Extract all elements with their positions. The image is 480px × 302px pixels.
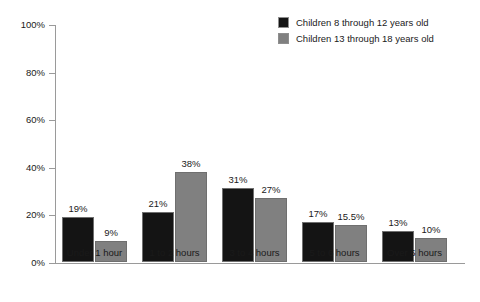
bar-value-label: 21% xyxy=(148,198,167,210)
y-axis-tick: 80% xyxy=(49,73,55,74)
y-axis-tick-label: 80% xyxy=(26,66,45,79)
bar-value-label: 31% xyxy=(228,174,247,186)
bar-chart: Children 8 through 12 years oldChildren … xyxy=(0,0,480,302)
x-axis-line xyxy=(55,263,465,264)
y-axis-tick: 20% xyxy=(49,215,55,216)
y-axis-tick-label: 60% xyxy=(26,113,45,126)
y-axis-tick-label: 20% xyxy=(26,208,45,221)
bar-value-label: 27% xyxy=(261,184,280,196)
bar-value-label: 13% xyxy=(388,217,407,229)
x-axis-category-label: 5 to 6 hours xyxy=(293,246,376,259)
bar-value-label: 17% xyxy=(308,208,327,220)
y-axis-tick: 100% xyxy=(49,25,55,26)
y-axis-tick: 0% xyxy=(49,263,55,264)
y-axis-line xyxy=(55,25,56,263)
x-axis-category-label: Under 1 hour xyxy=(53,246,136,259)
bar-group: 17%15.5% xyxy=(302,24,367,262)
bar-group: 31%27% xyxy=(222,24,287,262)
x-axis-category-label: 1 to 2 hours xyxy=(133,246,216,259)
y-axis-tick-label: 100% xyxy=(21,18,45,31)
bar-value-label: 38% xyxy=(181,158,200,170)
x-axis-category-label: 3 to 4 hours xyxy=(213,246,296,259)
bar-value-label: 19% xyxy=(68,203,87,215)
bar-group: 13%10% xyxy=(382,24,447,262)
plot-area: 0%20%40%60%80%100% 19%9%21%38%31%27%17%1… xyxy=(55,25,465,263)
y-axis-tick-label: 40% xyxy=(26,161,45,174)
bar-value-label: 15.5% xyxy=(338,211,365,223)
bar-value-label: 10% xyxy=(421,224,440,236)
y-axis-tick: 60% xyxy=(49,120,55,121)
bar-group: 19%9% xyxy=(62,24,127,262)
y-axis-tick-label: 0% xyxy=(31,256,45,269)
bar-group: 21%38% xyxy=(142,24,207,262)
bar-value-label: 9% xyxy=(104,227,118,239)
x-axis-category-label: Over 6 hours xyxy=(373,246,456,259)
y-axis-tick: 40% xyxy=(49,168,55,169)
